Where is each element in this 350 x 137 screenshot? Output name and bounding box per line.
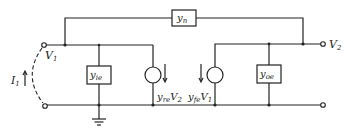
- input-terminal-top: [42, 43, 47, 48]
- feedback-branch: yn: [65, 10, 303, 45]
- y-parameter-circuit-diagram: yn yie yreV2: [0, 0, 350, 137]
- input-current-path: [32, 48, 43, 103]
- input-current-label: I1: [10, 74, 20, 88]
- svg-text:yfeV1: yfeV1: [187, 91, 212, 104]
- ground-icon: [92, 119, 106, 125]
- output-terminal-top: [321, 42, 326, 47]
- input-voltage-label: V1: [45, 49, 57, 63]
- input-terminal-bottom: [43, 104, 48, 109]
- reverse-current-source: [145, 67, 161, 83]
- output-voltage-label: V2: [329, 38, 342, 52]
- input-network: yie yreV2: [46, 43, 182, 125]
- output-network: yfeV1 yoe: [187, 42, 321, 106]
- forward-current-source: [207, 67, 223, 83]
- output-terminal-bottom: [321, 103, 326, 108]
- svg-text:yreV2: yreV2: [156, 91, 182, 104]
